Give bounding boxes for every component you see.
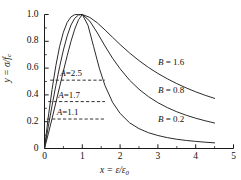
data-curves xyxy=(45,15,215,149)
x-tick-label: 0 xyxy=(38,152,52,162)
y-tick-label: 0 xyxy=(13,144,39,154)
annotation-label: A=1.1 xyxy=(57,108,79,117)
y-tick-label: 0.6 xyxy=(13,63,39,73)
curve-label: B = 1.6 xyxy=(158,58,184,67)
x-axis-title: x = ε/ε0 xyxy=(100,166,129,176)
x-tick-label: 3 xyxy=(151,152,165,162)
y-tick-label: 1.0 xyxy=(13,10,39,20)
annotation-label: A=1.7 xyxy=(58,91,80,100)
annotation-label: A=2.5 xyxy=(60,69,82,78)
x-tick-label: 4 xyxy=(189,152,203,162)
curve-label: B = 0.2 xyxy=(158,115,184,124)
x-tick-label: 1 xyxy=(75,152,89,162)
curve-label: B = 0.8 xyxy=(158,86,184,95)
y-tick-label: 0.8 xyxy=(13,36,39,46)
y-axis-title: y = σ/fc xyxy=(3,38,13,98)
x-tick-label: 5 xyxy=(227,152,241,162)
y-tick-label: 0.4 xyxy=(13,90,39,100)
y-tick-label: 0.2 xyxy=(13,117,39,127)
chart-figure: 00.20.40.60.81.0 012345 A=2.5A=1.7A=1.1 … xyxy=(0,0,241,180)
x-tick-label: 2 xyxy=(113,152,127,162)
